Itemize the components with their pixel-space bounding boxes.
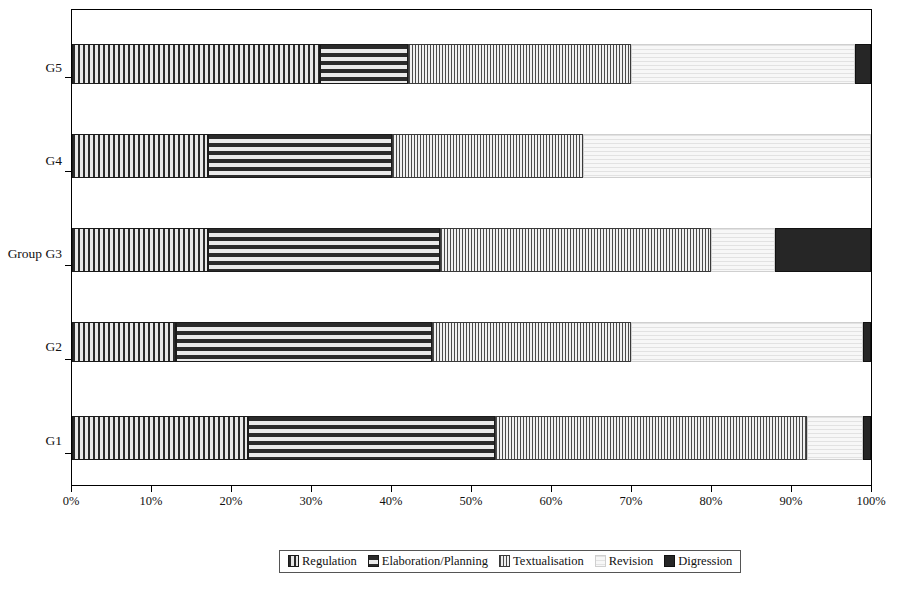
segment-g4-textualisation xyxy=(392,134,584,178)
x-tick-label-90: 90% xyxy=(780,495,803,508)
x-tick-mark-50 xyxy=(471,486,472,492)
segment-g4-revision xyxy=(583,134,871,178)
segment-g1-elaboration xyxy=(248,416,496,460)
segment-g2-revision xyxy=(631,322,863,362)
x-tick-label-10: 10% xyxy=(140,495,163,508)
y-tick-mark-g4 xyxy=(65,171,71,172)
bar-row-g2 xyxy=(72,322,871,362)
segment-g3-revision xyxy=(711,228,775,272)
legend-label-textualisation: Textualisation xyxy=(513,555,584,568)
bar-row-g3 xyxy=(72,228,871,272)
segment-g5-digression xyxy=(855,44,871,84)
x-tick-mark-40 xyxy=(391,486,392,492)
x-tick-label-100: 100% xyxy=(856,495,885,508)
x-tick-mark-10 xyxy=(151,486,152,492)
legend-item-digression: Digression xyxy=(664,555,732,568)
x-tick-label-80: 80% xyxy=(700,495,723,508)
bars-layer xyxy=(72,10,871,485)
x-tick-mark-30 xyxy=(311,486,312,492)
y-tick-mark-g1 xyxy=(65,453,71,454)
x-tick-mark-60 xyxy=(551,486,552,492)
y-tick-label-g2: G2 xyxy=(46,340,63,354)
segment-g3-regulation xyxy=(72,228,208,272)
segment-g5-revision xyxy=(631,44,855,84)
legend-label-elaboration: Elaboration/Planning xyxy=(382,555,488,568)
y-tick-mark-g5 xyxy=(65,77,71,78)
legend-item-elaboration: Elaboration/Planning xyxy=(368,555,488,568)
x-tick-label-20: 20% xyxy=(220,495,243,508)
chart-legend: Regulation Elaboration/Planning Textuali… xyxy=(279,550,741,573)
x-tick-label-50: 50% xyxy=(460,495,483,508)
segment-g3-elaboration xyxy=(208,228,440,272)
segment-g2-digression xyxy=(863,322,871,362)
legend-swatch-digression-icon xyxy=(664,555,675,567)
x-tick-label-70: 70% xyxy=(620,495,643,508)
segment-g2-textualisation xyxy=(432,322,632,362)
x-tick-mark-0 xyxy=(71,486,72,492)
legend-item-regulation: Regulation xyxy=(288,555,357,568)
segment-g2-elaboration xyxy=(176,322,432,362)
segment-g3-textualisation xyxy=(440,228,712,272)
x-tick-mark-90 xyxy=(791,486,792,492)
segment-g1-regulation xyxy=(72,416,248,460)
y-tick-label-g3: G3 xyxy=(46,246,63,261)
segment-g1-digression xyxy=(863,416,871,460)
legend-swatch-regulation-icon xyxy=(288,555,299,567)
segment-g1-textualisation xyxy=(495,416,807,460)
segment-g5-textualisation xyxy=(408,44,632,84)
stacked-bar-chart: G5 G4 Group G3 G2 G1 xyxy=(0,0,897,593)
segment-g5-regulation xyxy=(72,44,320,84)
x-tick-label-40: 40% xyxy=(380,495,403,508)
y-tick-label-g4: G4 xyxy=(46,154,63,168)
x-tick-label-60: 60% xyxy=(540,495,563,508)
segment-g2-regulation xyxy=(72,322,176,362)
legend-label-revision: Revision xyxy=(609,555,653,568)
segment-g1-revision xyxy=(807,416,863,460)
segment-g4-elaboration xyxy=(208,134,392,178)
bar-row-g5 xyxy=(72,44,871,84)
legend-item-revision: Revision xyxy=(595,555,653,568)
x-tick-mark-20 xyxy=(231,486,232,492)
legend-label-regulation: Regulation xyxy=(302,555,357,568)
y-axis-title-text: Group xyxy=(8,246,43,261)
x-tick-mark-100 xyxy=(871,486,872,492)
x-tick-mark-70 xyxy=(631,486,632,492)
x-axis: 0% 10% 20% 30% 40% 50% 60% 70% 80% 90% 1… xyxy=(71,486,872,516)
legend-item-textualisation: Textualisation xyxy=(499,555,584,568)
legend-swatch-revision-icon xyxy=(595,555,606,567)
segment-g4-regulation xyxy=(72,134,208,178)
y-axis: G5 G4 Group G3 G2 G1 xyxy=(0,9,71,488)
legend-swatch-elaboration-icon xyxy=(368,555,379,567)
legend-label-digression: Digression xyxy=(678,555,732,568)
bar-row-g4 xyxy=(72,134,871,178)
x-tick-label-30: 30% xyxy=(300,495,323,508)
y-tick-label-g1: G1 xyxy=(46,434,63,448)
segment-g3-digression xyxy=(775,228,871,272)
x-tick-mark-80 xyxy=(711,486,712,492)
y-tick-mark-g3 xyxy=(65,265,71,266)
legend-swatch-textualisation-icon xyxy=(499,555,510,567)
y-tick-label-g5: G5 xyxy=(46,61,63,75)
segment-g5-elaboration xyxy=(320,44,408,84)
y-axis-title: Group G3 xyxy=(8,247,62,261)
y-tick-mark-g2 xyxy=(65,359,71,360)
bar-row-g1 xyxy=(72,416,871,460)
x-tick-label-0: 0% xyxy=(63,495,80,508)
